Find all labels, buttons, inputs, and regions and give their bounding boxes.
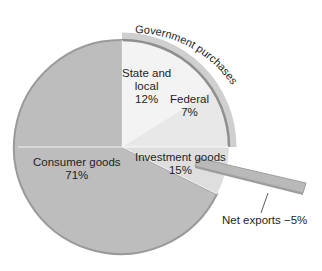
federal-pct: 7% [170,106,209,119]
consumer-name: Consumer goods [33,156,121,169]
investment-pct: 15% [135,164,226,177]
label-investment-goods: Investment goods 15% [135,151,226,177]
label-state-local: State and local 12% [122,67,171,106]
label-consumer-goods: Consumer goods 71% [33,156,121,182]
net-exports-leader [261,193,268,213]
state-line1: State and [122,67,171,80]
federal-name: Federal [170,93,209,106]
pie-chart: Government purchases [0,0,322,271]
label-federal: Federal 7% [170,93,209,119]
state-pct: 12% [122,93,171,106]
label-net-exports: Net exports −5% [222,214,307,227]
state-line2: local [122,80,171,93]
investment-name: Investment goods [135,151,226,164]
consumer-pct: 71% [33,169,121,182]
